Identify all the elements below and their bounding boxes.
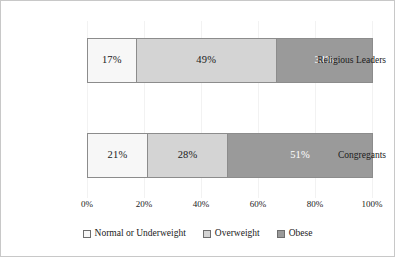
legend-label: Obese bbox=[289, 229, 313, 239]
legend-label: Overweight bbox=[215, 229, 260, 239]
x-tick-label: 60% bbox=[250, 200, 267, 209]
legend-swatch-icon bbox=[277, 230, 285, 238]
bar-segment-normal-or-underweight[interactable]: 21% bbox=[87, 133, 147, 178]
legend-item-obese[interactable]: Obese bbox=[277, 229, 313, 239]
legend-item-overweight[interactable]: Overweight bbox=[203, 229, 260, 239]
legend-swatch-icon bbox=[83, 230, 91, 238]
bar-segment-value: 49% bbox=[196, 55, 216, 66]
x-tick-label: 80% bbox=[307, 200, 324, 209]
bar-segment-value: 17% bbox=[102, 55, 122, 66]
chart-legend: Normal or Underweight Overweight Obese bbox=[1, 229, 394, 239]
category-label-congregants: Congregants bbox=[338, 151, 386, 161]
bar-row: 21% 28% 51% bbox=[87, 133, 373, 178]
x-tick-label: 100% bbox=[362, 200, 383, 209]
bar-segment-normal-or-underweight[interactable]: 17% bbox=[87, 38, 136, 83]
legend-swatch-icon bbox=[203, 230, 211, 238]
plot-area: 17% 49% 34% 21% 28% 51% bbox=[87, 21, 373, 198]
x-tick-label: 20% bbox=[136, 200, 153, 209]
x-tick-label: 0% bbox=[81, 200, 93, 209]
bar-segment-value: 28% bbox=[178, 150, 198, 161]
bar-segment-overweight[interactable]: 28% bbox=[147, 133, 227, 178]
legend-label: Normal or Underweight bbox=[95, 229, 186, 239]
bar-segment-overweight[interactable]: 49% bbox=[136, 38, 276, 83]
bar-segment-value: 21% bbox=[108, 150, 128, 161]
category-label-religious-leaders: Religious Leaders bbox=[317, 56, 386, 66]
bar-segment-value: 51% bbox=[290, 150, 310, 161]
chart-figure: 17% 49% 34% 21% 28% 51% Religious Leader… bbox=[0, 0, 395, 257]
x-axis: 0% 20% 40% 60% 80% 100% bbox=[87, 200, 373, 216]
x-tick-label: 40% bbox=[193, 200, 210, 209]
legend-item-normal-or-underweight[interactable]: Normal or Underweight bbox=[83, 229, 186, 239]
